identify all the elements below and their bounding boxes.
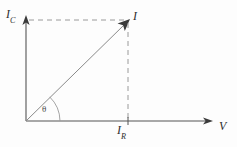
phase-angle-symbol: θ — [42, 104, 46, 114]
resultant-current-label-base: I — [133, 9, 137, 23]
resultant-current-label: I — [133, 10, 137, 22]
phase-angle-label: θ — [42, 105, 46, 114]
horizontal-axis-label: V — [219, 120, 226, 132]
vertical-axis-label: IC — [6, 8, 15, 24]
phasor-diagram-figure: IC I IR V θ — [0, 0, 237, 147]
vertical-axis-label-subscript: C — [10, 16, 15, 25]
resultant-current-vector-line — [26, 24, 125, 121]
resistive-current-label-subscript: R — [121, 132, 126, 141]
resistive-current-label: IR — [117, 124, 126, 140]
phase-angle-arc — [50, 97, 60, 121]
horizontal-axis-label-text: V — [219, 119, 226, 133]
